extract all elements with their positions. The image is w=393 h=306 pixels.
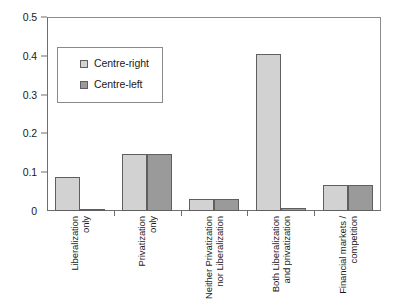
x-axis-tick-mark xyxy=(314,211,315,216)
legend-item-label: Centre-right xyxy=(94,58,149,69)
bar xyxy=(348,185,373,211)
x-axis-category-label-line: Both Liberalization xyxy=(270,216,281,292)
y-axis-tick-label: 0.3 xyxy=(23,89,37,100)
bar xyxy=(147,154,172,211)
bar xyxy=(214,199,239,211)
bar xyxy=(55,177,80,211)
x-axis-category-label: Privatizationonly xyxy=(114,216,181,306)
x-axis-category-label: Both Liberalizationand privatization xyxy=(247,216,314,306)
x-axis-tick-mark xyxy=(181,211,182,216)
bar xyxy=(189,199,214,211)
x-axis-category-label: Financial markets /competition xyxy=(314,216,381,306)
y-axis-tick-label: 0.1 xyxy=(23,167,37,178)
bar xyxy=(281,208,306,211)
x-axis-category-label-line: Liberalization xyxy=(69,216,80,271)
bar xyxy=(323,185,348,211)
bar xyxy=(256,54,281,211)
y-axis-tick-label: 0.4 xyxy=(23,51,37,62)
light-gray-swatch-icon xyxy=(80,60,88,68)
x-axis-category-label-line: nor Liberalization xyxy=(214,216,225,287)
x-axis-category-label-line: only xyxy=(80,216,91,233)
x-axis-category-label-line: Privatization xyxy=(136,216,147,266)
x-axis-category-label-line: and privatization xyxy=(281,216,292,283)
x-axis-category-label: Liberalizationonly xyxy=(47,216,114,306)
x-axis-category-label-line: Neither Privatization xyxy=(203,216,214,299)
legend-item-centre-left: Centre-left xyxy=(80,79,142,90)
y-axis-tick-label: 0 xyxy=(31,206,37,217)
x-axis-category-label-line: only xyxy=(147,216,158,233)
x-axis-tick-mark xyxy=(247,211,248,216)
x-axis-category-label-line: competition xyxy=(348,216,359,263)
bar-chart-figure: 0.50.40.30.20.10 Centre-right Centre-lef… xyxy=(0,0,393,306)
dark-gray-swatch-icon xyxy=(80,81,88,89)
y-axis-tick-label: 0.5 xyxy=(23,12,37,23)
y-axis-tick-label: 0.2 xyxy=(23,128,37,139)
x-axis-tick-mark xyxy=(114,211,115,216)
legend-item-label: Centre-left xyxy=(94,79,142,90)
x-axis-category-label: Neither Privatizationnor Liberalization xyxy=(181,216,248,306)
legend: Centre-right Centre-left xyxy=(57,47,163,103)
legend-item-centre-right: Centre-right xyxy=(80,58,149,69)
x-axis-category-label-line: Financial markets / xyxy=(337,216,348,294)
x-axis-category-labels: LiberalizationonlyPrivatizationonlyNeith… xyxy=(47,216,381,306)
bar xyxy=(80,209,105,211)
y-axis: 0.50.40.30.20.10 xyxy=(0,0,47,306)
bar xyxy=(122,154,147,211)
